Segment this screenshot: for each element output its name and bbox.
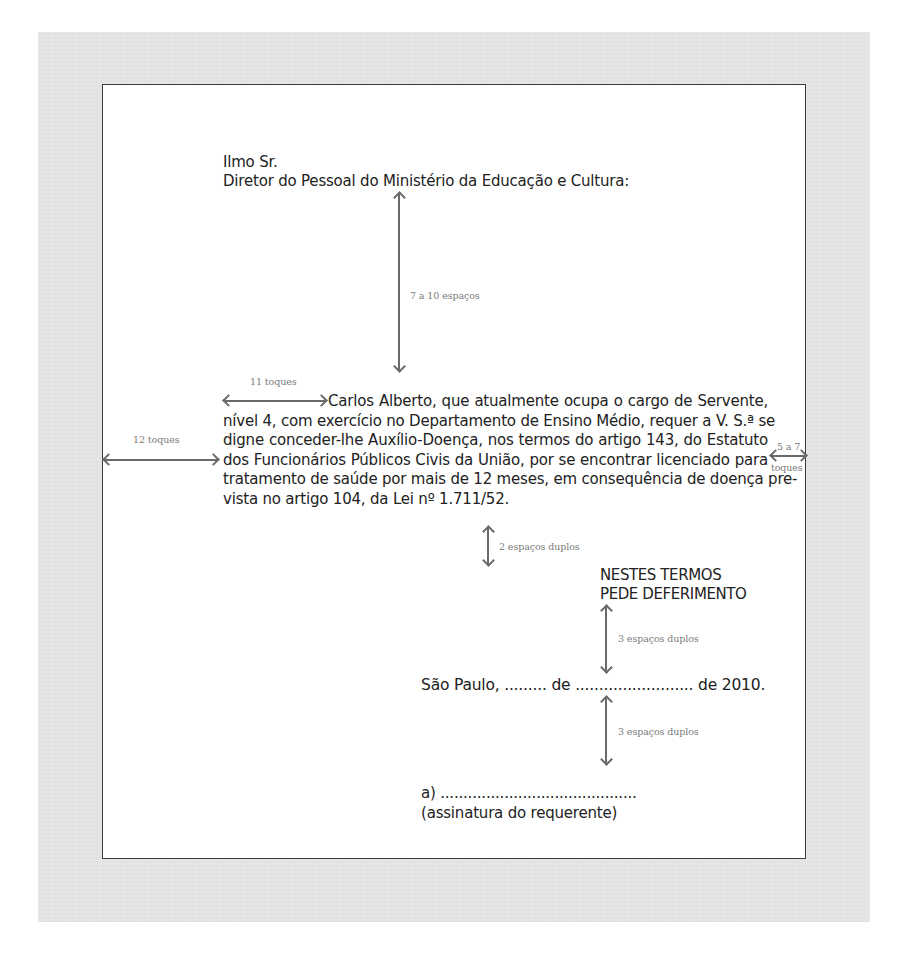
left-margin-note: 12 toques: [133, 434, 179, 445]
right-margin-note-2: toques: [771, 462, 803, 473]
body-line-3: digne conceder-lhe Auxílio-Doença, nos t…: [223, 431, 768, 450]
signature-caption: (assinatura do requerente): [421, 804, 617, 823]
arrow-shaft: [105, 459, 217, 461]
signature-line: a) .....................................…: [421, 784, 637, 803]
spacing-after-date-note: 3 espaços duplos: [618, 726, 699, 737]
body-line-6: vista no artigo 104, da Lei nº 1.711/52.: [223, 490, 509, 509]
closing-line-2: PEDE DEFERIMENTO: [600, 585, 747, 604]
body-line-1: Carlos Alberto, que atualmente ocupa o c…: [328, 392, 768, 411]
indent-note: 11 toques: [250, 376, 296, 387]
spacing-after-body-note: 2 espaços duplos: [499, 541, 580, 552]
body-line-2: nível 4, com exercício no Departamento d…: [223, 412, 768, 431]
salutation: Ilmo Sr.: [223, 153, 278, 172]
addressee: Diretor do Pessoal do Ministério da Educ…: [223, 172, 629, 191]
arrow-shaft: [225, 400, 325, 402]
place-date: São Paulo, ......... de ................…: [421, 676, 765, 695]
body-line-5: tratamento de saúde por mais de 12 meses…: [223, 470, 768, 489]
spacing-after-closing-note: 3 espaços duplos: [618, 633, 699, 644]
closing-line-1: NESTES TERMOS: [600, 566, 721, 585]
right-margin-note-1: 5 a 7: [777, 441, 800, 452]
spacing-top-note: 7 a 10 espaços: [410, 290, 480, 301]
body-line-4: dos Funcionários Públicos Civis da União…: [223, 451, 768, 470]
arrow-shaft: [398, 194, 400, 370]
